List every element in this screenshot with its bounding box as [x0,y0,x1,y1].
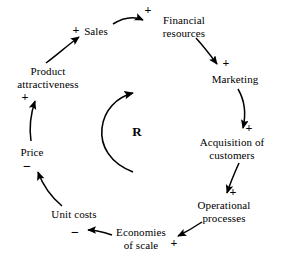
node-financial-resources: Financial resources [163,14,205,39]
node-economies-of-scale-line-2: of scale [116,238,166,251]
polarity-price-to-product-attractiveness: + [22,91,29,103]
polarity-financial-resources-to-marketing: + [223,57,230,69]
node-operational-processes: Operational processes [197,199,250,224]
polarity-marketing-to-acquisition-of-customers: + [246,122,253,134]
node-product-attractiveness-line-2: attractiveness [17,77,78,90]
node-price-line-1: Price [20,146,43,159]
node-sales-line-1: Sales [84,25,108,38]
node-economies-of-scale-line-1: Economies [116,226,166,239]
node-unit-costs: Unit costs [51,208,96,221]
arrow-product-attractiveness-to-sales [46,37,79,63]
node-product-attractiveness-line-1: Product [17,65,78,78]
arrow-economies-of-scale-to-unit-costs [88,230,112,235]
arrow-marketing-to-acquisition-of-customers [238,89,245,128]
arrow-operational-processes-to-economies-of-scale [178,222,202,236]
polarity-unit-costs-to-price: − [23,161,31,173]
causal-loop-diagram: Sales Financial resources Marketing Acqu… [0,0,288,263]
polarity-acquisition-of-customers-to-operational-processes: + [230,186,237,198]
node-product-attractiveness: Product attractiveness [17,65,78,90]
node-sales: Sales [84,25,108,38]
reinforcing-loop-arc [102,93,133,172]
node-acquisition-of-customers: Acquisition of customers [200,136,265,161]
polarity-product-attractiveness-to-sales: + [73,24,80,36]
node-unit-costs-line-1: Unit costs [51,208,96,221]
node-acquisition-of-customers-line-1: Acquisition of [200,136,265,149]
node-economies-of-scale: Economies of scale [116,226,166,251]
node-financial-resources-line-2: resources [163,26,205,39]
node-financial-resources-line-1: Financial [163,14,205,27]
arrow-unit-costs-to-price [38,172,62,206]
node-price: Price [20,146,43,159]
arrow-sales-to-financial-resources [113,18,143,24]
node-marketing: Marketing [212,73,259,86]
polarity-operational-processes-to-economies-of-scale: + [171,237,178,249]
node-operational-processes-line-1: Operational [197,199,250,212]
node-marketing-line-1: Marketing [212,73,259,86]
polarity-economies-of-scale-to-unit-costs: − [71,227,79,239]
arrow-price-to-product-attractiveness [30,101,35,141]
node-acquisition-of-customers-line-2: customers [200,148,265,161]
node-operational-processes-line-2: processes [197,211,250,224]
polarity-sales-to-financial-resources: + [145,4,152,16]
reinforcing-loop-label: R [132,124,141,140]
arrow-financial-resources-to-marketing [196,38,217,64]
